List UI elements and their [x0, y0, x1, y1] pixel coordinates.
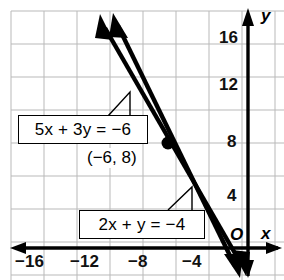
origin-label: O: [230, 225, 243, 245]
x-tick-neg8: −8: [128, 252, 147, 272]
intersection-point-label: (−6, 8): [86, 148, 138, 168]
line2-arrow-lower: [224, 254, 243, 278]
x-tick-neg16: −16: [15, 252, 44, 272]
line2-arrow-upper: [109, 13, 128, 38]
equation-label-1: 5x + 3y = −6: [18, 115, 148, 144]
y-tick-16: 16: [219, 28, 238, 48]
x-tick-neg4: −4: [182, 252, 201, 272]
y-axis-label: y: [261, 6, 270, 26]
x-tick-neg12: −12: [70, 252, 99, 272]
y-tick-8: 8: [227, 132, 236, 152]
graph-figure: 5x + 3y = −6 2x + y = −4 (−6, 8) 16 12 8…: [0, 0, 284, 280]
y-tick-12: 12: [219, 75, 238, 95]
equation-2-text: 2x + y = −4: [99, 215, 186, 235]
intersection-point-marker: [162, 137, 175, 150]
y-tick-4: 4: [227, 186, 236, 206]
equation-1-text: 5x + 3y = −6: [35, 120, 131, 140]
x-axis-label: x: [261, 224, 270, 244]
equation-label-2: 2x + y = −4: [79, 210, 205, 239]
